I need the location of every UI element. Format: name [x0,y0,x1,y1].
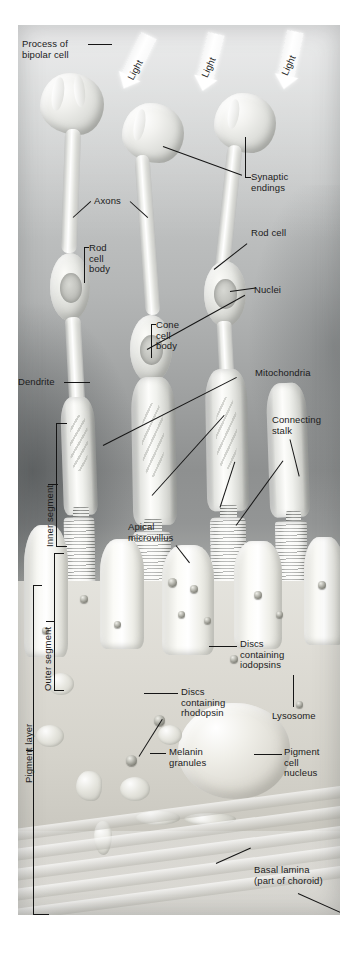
label-rod-cell: Rod cell [251,228,286,239]
label-pigment-layer: Pigment layer [24,724,35,783]
label-melanin-granules: Melanin granules [169,747,206,768]
leader-synaptic-endings-vertical [245,137,246,177]
bracket-pigment-layer-foot [33,914,49,915]
bracket-outer-segment [54,553,64,691]
label-pigment-cell-nucleus: Pigment cell nucleus [284,747,320,779]
label-axons: Axons [94,196,121,207]
label-mitochondria: Mitochondria [255,368,311,379]
leader-cone-cell-body-vertical [151,324,152,358]
leader-discs-containing-rhodopsin [144,693,178,694]
label-synaptic-endings: Synaptic endings [251,172,288,193]
bracket-inner-segment [56,423,67,547]
label-discs-containing-iodopsins: Discs containing iodopsins [240,639,284,671]
label-cone-cell-body: Cone cell body [156,320,179,352]
label-lysosome: Lysosome [272,711,316,722]
label-apical-microvillus: Apical microvillus [128,522,173,543]
leader-discs-containing-iodopsins [209,646,237,647]
leader-rod-cell-body-vertical [84,247,85,283]
label-outer-segment: Outer segment [43,627,54,691]
leader-synaptic-endings-hook [245,177,251,178]
bracket-outer-segment-tick [46,621,55,622]
label-connecting-stalk: Connecting stalk [272,415,321,436]
label-nuclei: Nuclei [254,285,281,296]
leader-lysosome [293,675,294,707]
label-process-of-bipolar-cell: Process of bipolar cell [22,39,69,60]
leader-rod-cell-body-hook [84,247,89,248]
leader-pigment-cell-nucleus [254,754,282,755]
label-inner-segment: Inner segment [45,485,56,547]
label-discs-containing-rhodopsin: Discs containing rhodopsin [181,687,225,719]
label-rod-cell-body: Rod cell body [89,243,110,275]
label-basal-lamina: Basal lamina (part of choroid) [254,865,323,886]
label-dendrite: Dendrite [18,377,55,388]
retina-photoreceptor-illustration: Light Light Light Process of bipolar cel… [18,25,340,915]
leader-melanin-granules-hook [150,753,166,754]
leader-process-of-bipolar-cell [88,44,112,45]
leader-dendrite [64,382,90,383]
leader-cone-cell-body-hook [151,324,156,325]
